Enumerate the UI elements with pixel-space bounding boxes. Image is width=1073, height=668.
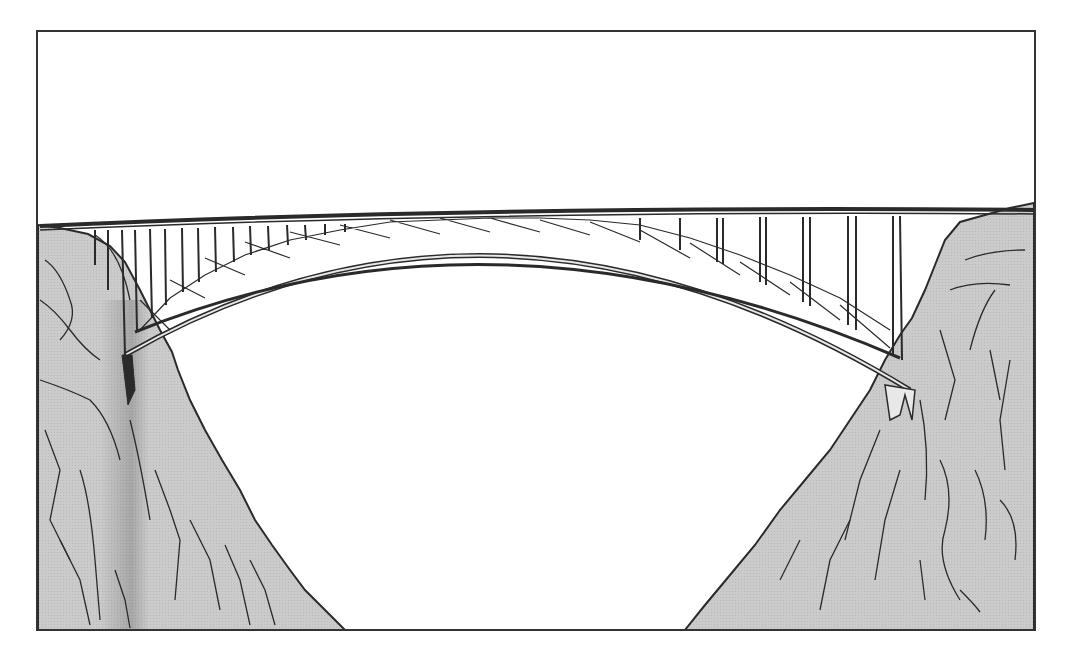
right-abutment xyxy=(885,385,915,420)
spandrel-columns xyxy=(95,216,902,360)
bridge xyxy=(40,209,1034,420)
right-cliff xyxy=(685,203,1034,630)
arch-bracing xyxy=(140,218,890,348)
arch-upper-chord xyxy=(135,264,900,358)
bridge-illustration xyxy=(0,0,1073,668)
left-cliff xyxy=(38,225,345,630)
